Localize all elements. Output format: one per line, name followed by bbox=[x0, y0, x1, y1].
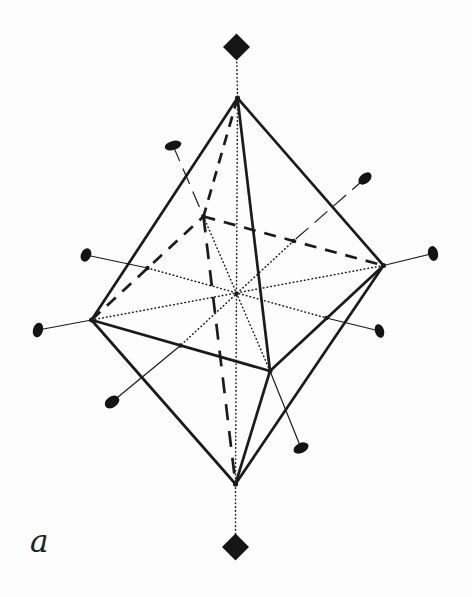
diamond-bottom-marker bbox=[222, 534, 249, 561]
ellipsoid-lower-right bbox=[292, 440, 311, 456]
ellipsoid-far-left bbox=[31, 321, 45, 338]
diamond-top-marker bbox=[223, 34, 250, 61]
figure-canvas: a bbox=[0, 0, 472, 597]
atom-dot-mid-left-front bbox=[178, 343, 182, 347]
bond-ellipsoid-mid-left bbox=[86, 255, 148, 268]
bond-ellipsoid-lower-right bbox=[270, 371, 301, 448]
edge-apex-top--apex-bottom-dotted bbox=[236, 98, 238, 484]
atom-dot-mid-front-right bbox=[324, 316, 328, 320]
ellipsoid-mid-left bbox=[79, 247, 94, 264]
ellipsoid-right bbox=[373, 323, 386, 339]
atom-dot-eq-left bbox=[89, 318, 94, 323]
figure-label: a bbox=[30, 526, 48, 557]
edge-apex-top--eq-back-dashed-bold bbox=[204, 98, 238, 217]
atom-dot-eq-front bbox=[268, 369, 273, 374]
atom-dot-apex-top bbox=[235, 95, 240, 100]
atom-dot-center bbox=[235, 292, 239, 296]
atom-dot-eq-right bbox=[381, 263, 386, 268]
bond-ellipsoid-far-right bbox=[384, 254, 434, 266]
atom-dot-eq-back bbox=[201, 214, 206, 219]
atom-dot-mid-left-back bbox=[145, 266, 149, 270]
atom-dot-mid-back-right bbox=[291, 239, 295, 243]
structure-svg bbox=[0, 0, 472, 597]
edge-apex-bottom--eq-front-solid-bold bbox=[236, 371, 271, 484]
edge-eq-back--apex-bottom-dashed-bold bbox=[204, 217, 236, 485]
bond-ellipsoid-far-left bbox=[38, 320, 92, 330]
ellipsoid-upper-left bbox=[164, 139, 183, 152]
atom-dot-apex-bottom bbox=[233, 481, 238, 486]
edge-apex-top--eq-left-solid-bold bbox=[92, 98, 238, 320]
bond-ellipsoid-right bbox=[327, 318, 380, 331]
ellipsoid-far-right bbox=[427, 245, 440, 262]
